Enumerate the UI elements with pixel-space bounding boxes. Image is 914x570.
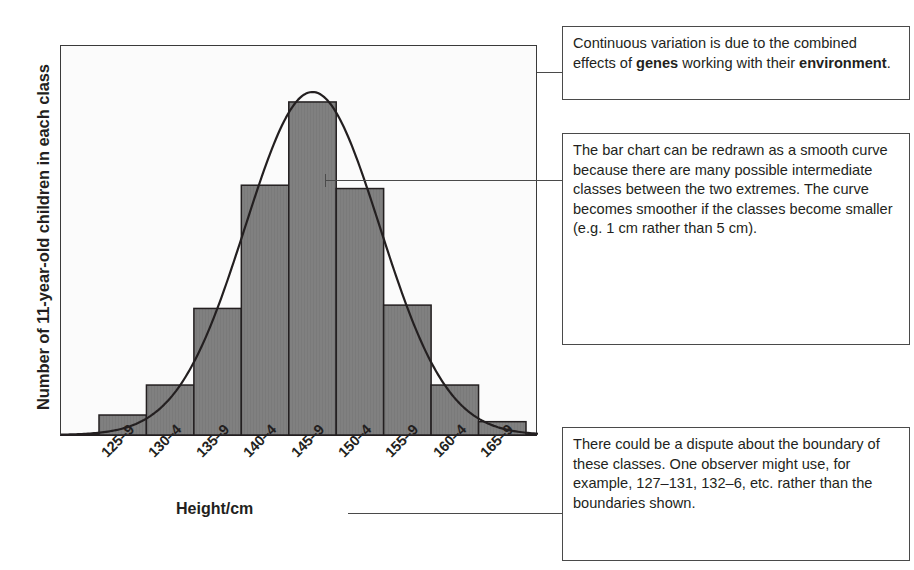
- callout-emphasis: genes: [636, 55, 678, 71]
- histogram-plot-area: [60, 45, 537, 436]
- leader-line-smooth-curve-tick: [325, 174, 326, 187]
- callout-text: There could be a dispute about the bound…: [573, 436, 880, 511]
- histogram-svg: [61, 46, 538, 437]
- x-axis-title: Height/cm: [176, 500, 253, 518]
- bar-group: [99, 102, 526, 435]
- callout-smooth-curve: The bar chart can be redrawn as a smooth…: [562, 133, 910, 345]
- histogram-bar: [194, 308, 241, 435]
- histogram-bar: [384, 305, 431, 435]
- histogram-bar: [336, 189, 383, 435]
- callout-class-boundaries: There could be a dispute about the bound…: [562, 427, 910, 561]
- histogram-bar: [241, 185, 288, 435]
- leader-line-class-boundaries: [348, 513, 563, 514]
- callout-text: The bar chart can be redrawn as a smooth…: [573, 142, 893, 236]
- histogram-bar: [289, 102, 336, 435]
- callout-emphasis: environment: [799, 55, 887, 71]
- callout-text: working with their: [678, 55, 799, 71]
- callout-text: .: [887, 55, 891, 71]
- leader-line-smooth-curve: [325, 180, 563, 181]
- leader-line-genes: [537, 72, 563, 73]
- figure-root: Number of 11-year-old children in each c…: [0, 0, 914, 570]
- y-axis-title: Number of 11-year-old children in each c…: [30, 22, 56, 452]
- callout-genes-environment: Continuous variation is due to the combi…: [562, 26, 910, 100]
